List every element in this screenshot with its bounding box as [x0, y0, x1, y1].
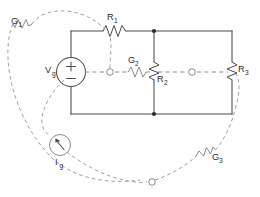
label-r3-sub: 3 [245, 69, 249, 76]
dual-node-outer-ring [149, 179, 156, 186]
label-ig-base: I [55, 157, 58, 167]
dual-wire-ig-to-bottom-node [67, 152, 147, 182]
r3-resistor-symbol [227, 62, 237, 80]
label-r2-base: R [157, 74, 164, 84]
label-vg-base: V [45, 65, 52, 75]
dual-node-b-ring [189, 69, 196, 76]
label-g3-sub: 3 [219, 157, 223, 164]
label-vg-sub: g [52, 70, 56, 78]
label-vg: V g [45, 65, 56, 78]
circuit-diagram: G 1 R 1 V g G 2 R 2 R 3 I g G 3 [0, 0, 260, 197]
label-r2: R 2 [157, 74, 168, 86]
label-ig-sub: g [60, 162, 64, 170]
label-r1: R 1 [107, 12, 118, 24]
junction-dot-top [152, 29, 156, 33]
label-g2-sub: 2 [135, 60, 139, 67]
label-g1-sub: 1 [19, 21, 23, 28]
label-r1-sub: 1 [114, 17, 118, 24]
label-ig: I g [55, 157, 64, 170]
dual-node-a-ring [107, 69, 114, 76]
label-g3: G 3 [212, 152, 223, 164]
label-r2-sub: 2 [164, 79, 168, 86]
diagram-canvas: G 1 R 1 V g G 2 R 2 R 3 I g G 3 [0, 0, 260, 197]
g3-loop-lower [155, 156, 196, 180]
dual-wire-vg-to-ig [42, 80, 64, 136]
junction-dot-bottom [152, 112, 156, 116]
label-r3-base: R [238, 64, 245, 74]
label-g1: G 1 [11, 16, 23, 28]
label-r3: R 3 [238, 64, 249, 76]
label-r1-base: R [107, 12, 114, 22]
g2-resistor-symbol [128, 67, 150, 77]
g3-loop-upper [216, 74, 240, 150]
r1-resistor-symbol [103, 26, 126, 37]
label-g1-base: G [11, 16, 18, 26]
label-g2: G 2 [128, 55, 139, 67]
